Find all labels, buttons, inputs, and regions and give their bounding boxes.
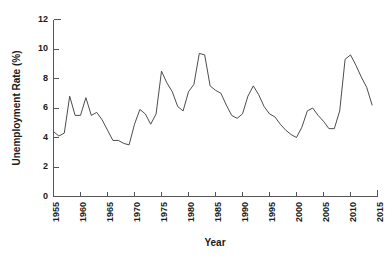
x-tick-label-1955: 1955 (51, 202, 61, 222)
x-tick-label-1995: 1995 (267, 202, 277, 222)
y-tick-marks (54, 20, 59, 197)
y-tick-label-0: 0 (43, 191, 48, 201)
x-tick-label-1985: 1985 (213, 202, 223, 222)
unemployment-rate-series (54, 53, 373, 144)
x-tick-label-1980: 1980 (186, 202, 196, 222)
x-tick-label-2005: 2005 (321, 202, 331, 222)
y-tick-label-12: 12 (38, 14, 48, 24)
x-tick-label-2000: 2000 (294, 202, 304, 222)
x-tick-label-1965: 1965 (105, 202, 115, 222)
y-tick-label-2: 2 (43, 161, 48, 171)
chart-canvas: 0 2 4 6 8 10 12 1955 1960 1965 1970 1975 (0, 0, 387, 256)
x-tick-label-2015: 2015 (375, 202, 385, 222)
y-tick-label-8: 8 (43, 73, 48, 83)
x-tick-label-1975: 1975 (159, 202, 169, 222)
x-axis-title: Year (204, 237, 225, 248)
x-tick-label-2010: 2010 (348, 202, 358, 222)
y-tick-label-10: 10 (38, 43, 48, 53)
y-tick-label-6: 6 (43, 102, 48, 112)
x-tick-label-1990: 1990 (240, 202, 250, 222)
unemployment-rate-line-chart: 0 2 4 6 8 10 12 1955 1960 1965 1970 1975 (0, 0, 387, 256)
x-tick-label-1960: 1960 (78, 202, 88, 222)
x-tick-marks (54, 192, 378, 197)
y-axis-title: Unemployment Rate (%) (11, 50, 22, 165)
x-tick-label-1970: 1970 (132, 202, 142, 222)
y-tick-label-4: 4 (43, 132, 48, 142)
